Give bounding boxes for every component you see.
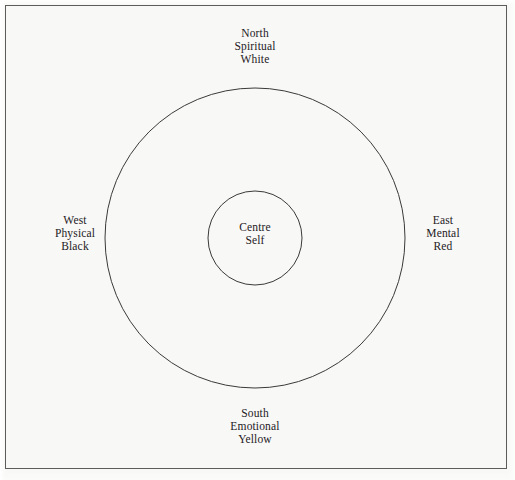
label-east: East Mental Red: [398, 214, 488, 254]
label-south-direction: South: [195, 407, 315, 420]
label-north: North Spiritual White: [195, 27, 315, 67]
label-north-aspect: Spiritual: [195, 40, 315, 53]
diagram-canvas: North Spiritual White West Physical Blac…: [0, 0, 515, 480]
label-north-direction: North: [195, 27, 315, 40]
label-centre-position: Centre: [205, 221, 305, 234]
label-west-aspect: Physical: [30, 227, 120, 240]
label-south: South Emotional Yellow: [195, 407, 315, 447]
label-east-color: Red: [398, 240, 488, 253]
label-east-direction: East: [398, 214, 488, 227]
label-centre: Centre Self: [205, 221, 305, 247]
label-centre-aspect: Self: [205, 234, 305, 247]
label-west: West Physical Black: [30, 214, 120, 254]
label-east-aspect: Mental: [398, 227, 488, 240]
label-north-color: White: [195, 53, 315, 66]
label-south-color: Yellow: [195, 433, 315, 446]
label-west-color: Black: [30, 240, 120, 253]
label-west-direction: West: [30, 214, 120, 227]
label-south-aspect: Emotional: [195, 420, 315, 433]
